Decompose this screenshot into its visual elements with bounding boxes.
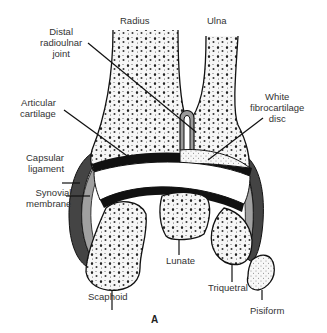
lunate-bone — [160, 193, 210, 240]
label-capsular-ligament: Capsular ligament — [26, 152, 64, 174]
label-ulna: Ulna — [207, 15, 227, 26]
panel-label: A — [151, 314, 158, 325]
label-articular-cartilage: Articular cartilage — [20, 97, 56, 119]
label-scaphoid: Scaphoid — [88, 291, 128, 302]
pisiform-bone — [247, 255, 274, 290]
scaphoid-bone — [86, 202, 146, 291]
label-lunate: Lunate — [166, 255, 195, 266]
label-synovial-membrane: Synovial membrane — [26, 187, 71, 209]
label-white-fibrocartilage-disc: White fibrocartilage disc — [250, 91, 304, 124]
label-triquetral: Triquetral — [208, 282, 248, 293]
label-pisiform: Pisiform — [250, 305, 284, 316]
label-radius: Radius — [120, 15, 150, 26]
label-distal-radioulnar-joint: Distal radioulnar joint — [40, 26, 82, 59]
